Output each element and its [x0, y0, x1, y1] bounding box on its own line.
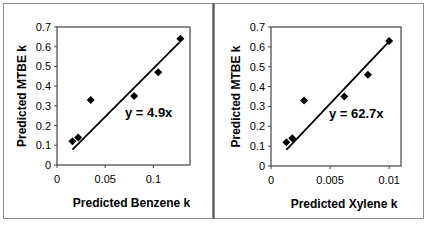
- data-point-diamond: [364, 71, 372, 79]
- trendline: [72, 42, 179, 149]
- data-point-diamond: [87, 96, 95, 104]
- data-point-diamond: [282, 138, 290, 146]
- data-point-diamond: [340, 93, 348, 101]
- x-tick-label: 0: [268, 174, 274, 186]
- x-tick-label: 0.005: [316, 174, 344, 186]
- data-point-diamond: [176, 35, 184, 43]
- x-tick-label: 0: [54, 173, 60, 185]
- x-tick-label: 0.1: [146, 173, 161, 185]
- y-tick-label: 0.7: [250, 21, 265, 33]
- y-tick-label: 0.3: [250, 100, 265, 112]
- trendline-equation: y = 62.7x: [329, 106, 384, 121]
- scatter-chart-benzene: 00.10.20.30.40.50.60.700.050.1Predicted …: [4, 4, 212, 218]
- x-tick-label: 0.05: [94, 173, 115, 185]
- x-axis-label: Predicted Xylene k: [291, 197, 398, 211]
- data-point-diamond: [68, 137, 76, 145]
- x-tick-label: 0.01: [378, 174, 399, 186]
- y-axis-label: Predicted MTBE k: [15, 45, 29, 147]
- y-tick-label: 0: [259, 160, 265, 172]
- y-axis-label: Predicted MTBE k: [229, 45, 243, 147]
- data-point-diamond: [300, 96, 308, 104]
- y-tick-label: 0.5: [250, 61, 265, 73]
- y-tick-label: 0.2: [36, 120, 51, 132]
- y-tick-label: 0.7: [36, 21, 51, 33]
- y-tick-label: 0.3: [36, 100, 51, 112]
- y-tick-label: 0.5: [36, 60, 51, 72]
- y-tick-label: 0.6: [36, 41, 51, 53]
- y-tick-label: 0.6: [250, 41, 265, 53]
- trendline-equation: y = 4.9x: [125, 105, 173, 120]
- chart-panel-xylene: 00.10.20.30.40.50.60.700.0050.01Predicte…: [214, 3, 424, 219]
- trendline: [286, 43, 388, 150]
- chart-panel-benzene: 00.10.20.30.40.50.60.700.050.1Predicted …: [3, 3, 213, 219]
- y-tick-label: 0.1: [36, 139, 51, 151]
- y-tick-label: 0.4: [250, 81, 265, 93]
- y-tick-label: 0.2: [250, 120, 265, 132]
- y-tick-label: 0.1: [250, 140, 265, 152]
- data-point-diamond: [154, 68, 162, 76]
- data-point-diamond: [130, 92, 138, 100]
- x-axis-label: Predicted Benzene k: [73, 196, 191, 210]
- scatter-chart-xylene: 00.10.20.30.40.50.60.700.0050.01Predicte…: [215, 4, 423, 218]
- y-tick-label: 0: [45, 159, 51, 171]
- y-tick-label: 0.4: [36, 80, 51, 92]
